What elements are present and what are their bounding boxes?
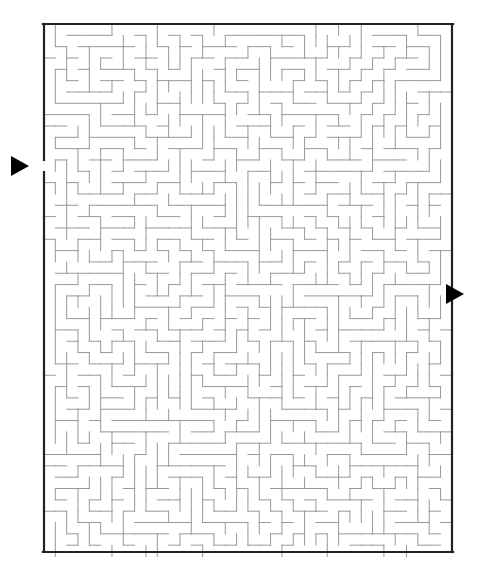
maze-canvas (0, 0, 489, 577)
page-background (0, 0, 489, 577)
maze-page (0, 0, 489, 577)
